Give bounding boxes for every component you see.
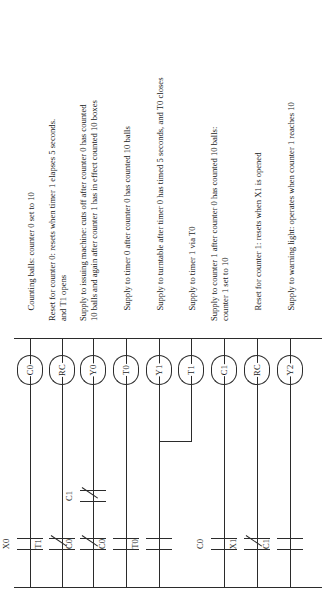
rung-note-3: Supply to issuing machine: cuts off afte… <box>78 100 99 321</box>
rung-note-line2: and T1 opens <box>58 119 69 321</box>
contact-label: X0 <box>2 539 11 549</box>
contact-bar <box>80 549 106 550</box>
coil-rung-2[interactable]: RC <box>49 355 75 385</box>
rung-note-line1: Supply to warning light: operates when c… <box>286 102 296 310</box>
contact-label: T0 <box>131 539 140 548</box>
coil-rung-3[interactable]: Y0 <box>80 355 106 385</box>
rung-note-8: Reset for counter 1: resets when X1 is o… <box>253 153 264 311</box>
contact-label: T1 <box>34 539 43 548</box>
power-rail-top <box>14 338 322 339</box>
rung-note-line1: Supply to timer 1 via T0 <box>187 226 197 310</box>
rung-note-line2: counter 1 set to 10 <box>220 127 231 321</box>
branch-wire-y1-t1 <box>159 441 192 442</box>
coil-label: Y2 <box>286 364 295 377</box>
coil-rung-1[interactable]: C0 <box>17 355 43 385</box>
contact-bar <box>277 538 303 539</box>
rung-note-line1: Counting balls: counter 0 set to 10 <box>26 192 36 310</box>
contact-nc-slash <box>82 535 98 546</box>
rung-line-6 <box>191 338 192 442</box>
rung-note-7: Supply to counter 1 after counter 0 has … <box>209 127 230 321</box>
contact-label: C1 <box>65 491 74 501</box>
coil-label: T0 <box>122 364 131 376</box>
contact-bar <box>146 549 172 550</box>
contact-bar <box>80 501 106 502</box>
contact-bar <box>80 490 106 491</box>
contact-rung-5-0[interactable]: T0 <box>146 538 172 550</box>
contact-rung-3-1[interactable]: C1 <box>80 490 106 502</box>
power-rail-bottom <box>14 587 322 588</box>
coil-label: Y1 <box>155 364 164 377</box>
rung-note-2: Reset for counter 0: resets when timer 1… <box>47 119 68 321</box>
ladder-logic-diagram: C0 X0 Counting balls: counter 0 set to 1… <box>0 0 333 607</box>
rung-note-4: Supply to timer 0 after counter 0 has co… <box>122 126 133 310</box>
rung-note-5: Supply to turntable after timer 0 has ti… <box>155 77 166 310</box>
rung-note-line1: Supply to timer 0 after counter 0 has co… <box>122 126 132 310</box>
contact-label: C0 <box>65 539 74 549</box>
coil-rung-8[interactable]: RC <box>244 355 270 385</box>
rung-note-line1: Supply to issuing machine: cuts off afte… <box>78 104 88 321</box>
rung-note-line1: Reset for counter 1: resets when X1 is o… <box>253 153 263 311</box>
coil-label: C0 <box>26 364 35 376</box>
coil-rung-4[interactable]: T0 <box>113 355 139 385</box>
contact-bar <box>113 549 139 550</box>
contact-bar <box>244 549 270 550</box>
rung-note-6: Supply to timer 1 via T0 <box>187 226 198 310</box>
coil-rung-5[interactable]: Y1 <box>146 355 172 385</box>
contact-label: X1 <box>229 539 238 549</box>
rung-note-line2: 10 balls and again after counter 1 has i… <box>89 100 100 321</box>
contact-label: C0 <box>98 539 107 549</box>
coil-rung-9[interactable]: Y2 <box>277 355 303 385</box>
coil-rung-6[interactable]: T1 <box>178 355 204 385</box>
coil-label: RC <box>58 363 67 377</box>
rung-note-1: Counting balls: counter 0 set to 10 <box>26 192 37 310</box>
contact-nc-slash <box>82 487 98 498</box>
rung-note-line1: Supply to counter 1 after counter 0 has … <box>209 127 219 321</box>
coil-label: C1 <box>220 364 229 376</box>
coil-label: T1 <box>187 364 196 376</box>
contact-label: C1 <box>262 539 271 549</box>
rung-note-line1: Reset for counter 0: resets when timer 1… <box>47 119 57 321</box>
contact-bar <box>277 549 303 550</box>
rung-note-9: Supply to warning light: operates when c… <box>286 102 297 310</box>
contact-nc-slash <box>246 535 262 546</box>
coil-label: Y0 <box>89 364 98 377</box>
rung-note-line1: Supply to turntable after timer 0 has ti… <box>155 77 165 310</box>
contact-rung-9-0[interactable]: C1 <box>277 538 303 550</box>
contact-bar <box>17 549 43 550</box>
coil-label: RC <box>253 363 262 377</box>
contact-label: C0 <box>196 539 205 549</box>
contact-bar <box>146 538 172 539</box>
coil-rung-7[interactable]: C1 <box>211 355 237 385</box>
contact-bar <box>49 549 75 550</box>
